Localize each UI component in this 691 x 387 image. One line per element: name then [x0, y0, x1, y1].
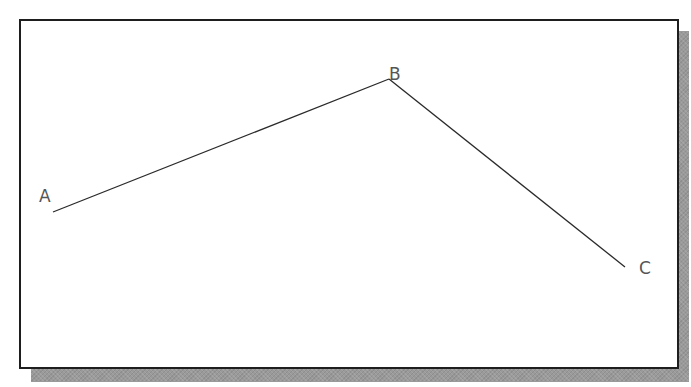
drawing-canvas: A B C [0, 0, 691, 387]
point-label-c: C [639, 258, 651, 278]
point-label-a: A [39, 186, 51, 206]
point-label-b: B [389, 64, 401, 84]
segment-a-b [53, 79, 389, 212]
segment-b-c [389, 79, 625, 267]
